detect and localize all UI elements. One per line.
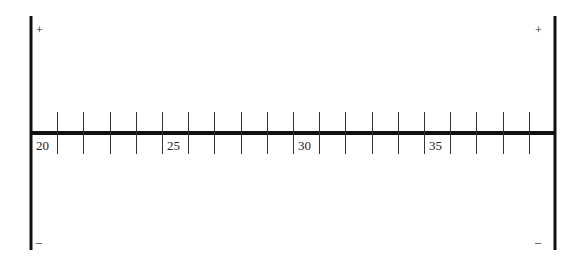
right-minus-sign: – bbox=[535, 236, 541, 248]
tick-label: 30 bbox=[298, 139, 311, 152]
left-plus-sign: + bbox=[36, 24, 43, 36]
tick-label: 20 bbox=[36, 139, 49, 152]
tick-label: 35 bbox=[429, 139, 442, 152]
right-plus-sign: + bbox=[535, 24, 542, 36]
tick-label: 25 bbox=[167, 139, 180, 152]
number-line-diagram: + – + – 20253035 bbox=[0, 0, 585, 267]
number-line-graphic bbox=[0, 0, 585, 267]
left-minus-sign: – bbox=[36, 236, 42, 248]
